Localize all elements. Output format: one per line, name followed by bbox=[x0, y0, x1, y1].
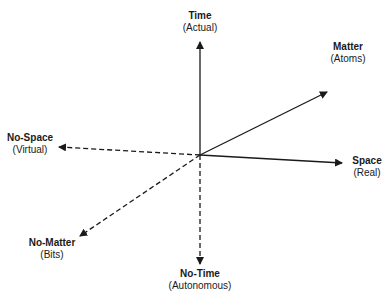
space-title: Space bbox=[345, 155, 389, 167]
no-space-subtitle: (Virtual) bbox=[2, 144, 58, 156]
space-axis-arrow bbox=[200, 155, 342, 163]
time-title: Time bbox=[170, 10, 230, 22]
no-time-label: No-Time (Autonomous) bbox=[160, 268, 240, 292]
no-space-label: No-Space (Virtual) bbox=[2, 132, 58, 156]
matter-subtitle: (Atoms) bbox=[318, 53, 378, 65]
space-subtitle: (Real) bbox=[345, 167, 389, 179]
no-matter-label: No-Matter (Bits) bbox=[20, 237, 84, 261]
no-space-title: No-Space bbox=[2, 132, 58, 144]
no-matter-subtitle: (Bits) bbox=[20, 249, 84, 261]
matter-axis-arrow bbox=[200, 92, 327, 155]
no-matter-title: No-Matter bbox=[20, 237, 84, 249]
time-label: Time (Actual) bbox=[170, 10, 230, 34]
space-label: Space (Real) bbox=[345, 155, 389, 179]
no-matter-axis-arrow bbox=[80, 155, 200, 236]
time-subtitle: (Actual) bbox=[170, 22, 230, 34]
matter-label: Matter (Atoms) bbox=[318, 41, 378, 65]
no-space-axis-arrow bbox=[59, 147, 200, 155]
no-time-subtitle: (Autonomous) bbox=[160, 280, 240, 292]
matter-title: Matter bbox=[318, 41, 378, 53]
no-time-title: No-Time bbox=[160, 268, 240, 280]
